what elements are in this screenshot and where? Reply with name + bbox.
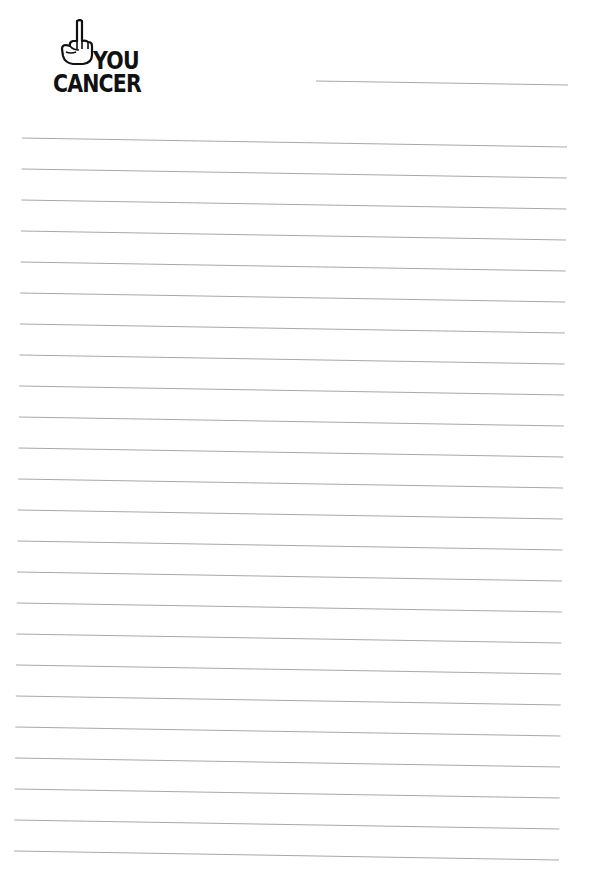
ruled-line: [19, 386, 564, 395]
ruled-line: [19, 448, 564, 457]
ruled-lines: [0, 0, 591, 885]
ruled-line: [14, 820, 559, 829]
ruled-line: [21, 262, 566, 271]
ruled-line: [18, 510, 563, 519]
ruled-line: [20, 324, 565, 333]
header-line: [316, 81, 568, 85]
ruled-line: [20, 355, 565, 364]
ruled-line: [16, 665, 561, 674]
ruled-line: [14, 851, 559, 860]
ruled-line: [16, 696, 561, 705]
ruled-line: [17, 541, 562, 550]
ruled-line: [17, 603, 562, 612]
ruled-line: [18, 479, 563, 488]
ruled-line: [20, 293, 565, 302]
ruled-line: [22, 169, 567, 178]
ruled-line: [17, 572, 562, 581]
ruled-line: [19, 417, 564, 426]
ruled-line: [16, 634, 561, 643]
ruled-line: [21, 200, 566, 209]
ruled-line: [22, 138, 567, 147]
ruled-line: [15, 758, 560, 767]
ruled-line: [15, 789, 560, 798]
ruled-line: [15, 727, 560, 736]
ruled-line: [21, 231, 566, 240]
